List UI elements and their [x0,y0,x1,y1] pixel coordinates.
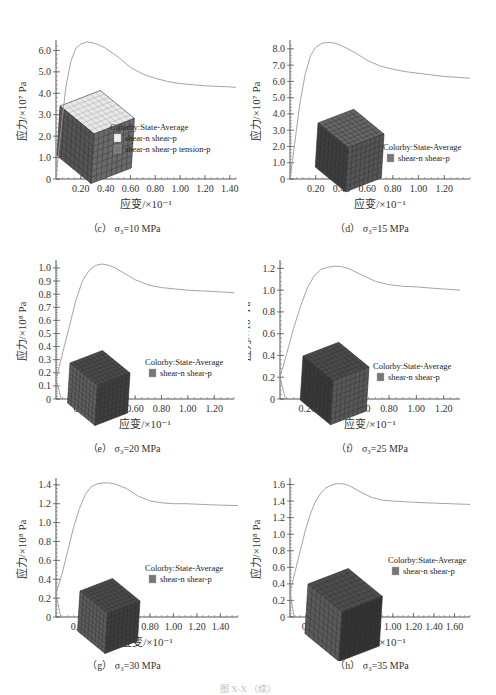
y-axis-title: 应力/×10⁸ Pa [248,301,252,361]
panel-f: 0.200.400.600.801.001.2000.20.40.60.81.0… [248,248,496,443]
x-tick-label: 1.60 [446,621,464,632]
figure-caption: 图 X-X （续） [0,682,496,695]
x-axis-title: 应变/×10⁻¹ [344,417,395,430]
x-tick-label: 1.20 [436,183,454,194]
legend-swatch [392,567,399,575]
x-tick-label: 0.60 [126,403,144,414]
x-axis-title: 应变/×10⁻¹ [120,197,171,210]
y-tick-label: 0.5 [39,328,52,339]
y-tick-label: 0 [46,612,51,623]
y-tick-label: 1.2 [263,263,276,274]
y-tick-label: 0 [270,394,275,405]
y-axis-title: 应力/×10⁸ Pa [15,301,28,361]
legend-swatch [149,369,156,377]
y-tick-label: 0.3 [39,354,52,365]
caption-e: （e） σ₃=20 MPa [0,440,248,455]
x-tick-label: 1.00 [171,183,189,194]
legend-title: Colorby:State-Average [145,563,223,573]
legend-title: Colorby:State-Average [383,142,461,152]
y-tick-label: 8.0 [273,43,286,54]
chart-d: 0.200.400.600.801.001.2001.02.03.04.05.0… [248,28,496,223]
y-tick-label: 6.0 [273,76,286,87]
y-tick-label: 1.0 [39,152,52,163]
panel-g: 0.200.400.600.801.001.201.4000.20.40.60.… [0,466,248,661]
chart-c: 0.200.400.600.801.001.201.4001.02.03.04.… [0,28,248,223]
y-tick-label: 1.6 [273,479,286,490]
panel-h: 0.200.400.600.801.001.201.401.6000.20.40… [248,466,496,661]
x-tick-label: 1.20 [205,403,223,414]
x-tick-label: 0.80 [380,403,398,414]
x-tick-label: 1.20 [435,403,453,414]
legend: Colorby:State-Averageshear-n shear-p [388,555,466,576]
model-cube-render [305,569,383,662]
legend-item-label: shear-n shear-p [160,368,212,378]
x-tick-label: 1.40 [212,621,230,632]
y-axis-title: 应力/×10⁸ Pa [15,519,28,579]
y-tick-label: 0.2 [39,593,52,604]
legend-item-label: shear-n shear-p [398,153,450,163]
x-tick-label: 0.60 [122,183,140,194]
caption-d: （d） σ₃=15 MPa [248,220,496,235]
y-tick-label: 0.4 [273,578,286,589]
y-tick-label: 0.6 [39,315,52,326]
x-tick-label: 1.40 [425,621,443,632]
y-tick-label: 0.8 [39,536,52,547]
x-tick-label: 1.20 [188,621,206,632]
legend: Colorby:State-Averageshear-n shear-pshea… [110,122,211,154]
panel-d: 0.200.400.600.801.001.2001.02.03.04.05.0… [248,28,496,223]
y-tick-label: 0.1 [39,380,52,391]
x-tick-label: 0.80 [141,621,159,632]
y-tick-label: 0.4 [39,341,52,352]
legend-item-label: shear-n shear-p [388,372,440,382]
legend-item-label: shear-n shear-p [125,133,177,143]
legend: Colorby:State-Averageshear-n shear-p [383,142,461,163]
y-tick-label: 0.8 [39,289,52,300]
y-tick-label: 0.8 [263,306,276,317]
y-tick-label: 1.2 [39,498,52,509]
legend-title: Colorby:State-Average [110,122,188,132]
y-tick-label: 0.6 [39,555,52,566]
legend-title: Colorby:State-Average [388,555,466,565]
y-tick-label: 0.4 [39,574,52,585]
y-axis-title: 应力/×10⁷ Pa [15,81,28,141]
y-tick-label: 4.0 [273,108,286,119]
y-axis-title: 应力/×10⁸ Pa [249,519,262,579]
y-tick-label: 0.2 [263,372,276,383]
caption-c: （c） σ₃=10 MPa [0,220,248,235]
x-tick-label: 1.00 [408,403,426,414]
caption-h: （h） σ₃=35 MPa [248,657,496,672]
y-tick-label: 0.2 [39,367,52,378]
initial-curve-segment [290,592,294,617]
model-cube-render [68,351,131,426]
model-cube-render [78,579,141,654]
y-tick-label: 1.4 [39,479,52,490]
x-axis-title: 应变/×10⁻¹ [119,417,170,430]
y-tick-label: 0.6 [273,562,286,573]
x-tick-label: 1.00 [179,403,197,414]
initial-curve-segment [56,379,61,399]
x-tick-label: 0.80 [384,183,402,194]
legend-item-label: shear-n shear-p [160,574,212,584]
y-tick-label: 1.0 [263,285,276,296]
y-tick-label: 6.0 [39,45,52,56]
y-tick-label: 2.0 [39,131,52,142]
legend-swatch [114,145,121,153]
legend: Colorby:State-Averageshear-n shear-p [373,361,451,382]
y-tick-label: 5.0 [39,66,52,77]
y-axis-title: 应力/×10⁷ Pa [249,81,262,141]
chart-g: 0.200.400.600.801.001.201.4000.20.40.60.… [0,466,248,661]
legend-item-label: shear-n shear-p [403,566,455,576]
initial-curve-segment [280,377,285,399]
panel-e: 0.200.400.600.801.001.2000.10.20.30.40.5… [0,248,248,443]
y-tick-label: 0 [46,394,51,405]
x-tick-label: 1.00 [165,621,183,632]
y-tick-label: 1.4 [273,496,286,507]
y-tick-label: 1.0 [39,262,52,273]
caption-f: （f） σ₃=25 MPa [248,440,496,455]
legend-title: Colorby:State-Average [145,357,223,367]
y-tick-label: 4.0 [39,88,52,99]
y-tick-label: 0.6 [263,328,276,339]
y-tick-label: 0.7 [39,302,52,313]
legend-swatch [114,134,121,142]
x-tick-label: 1.00 [410,183,428,194]
